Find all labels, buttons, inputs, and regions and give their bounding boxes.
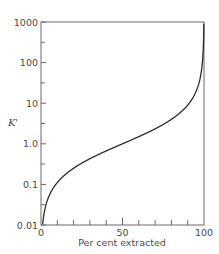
plot-frame [41,22,204,225]
y-tick-label: 10 [26,98,38,109]
x-axis-ticks [57,218,187,225]
chart-canvas: 0.010.11.0101001000 050100 Per cent extr… [0,0,219,254]
y-tick-label: 1000 [14,17,38,28]
y-tick-label: 0.01 [17,220,38,231]
y-tick-label: 100 [20,57,38,68]
y-tick-label: 0.1 [23,179,38,190]
x-tick-label: 0 [38,227,44,238]
y-tick-label: 1.0 [23,138,38,149]
data-curve [43,24,204,224]
x-tick-label: 100 [195,227,213,238]
y-axis-title: K' [7,117,18,128]
y-axis-ticks [41,22,46,225]
x-axis-title: Per cent extracted [78,237,166,248]
